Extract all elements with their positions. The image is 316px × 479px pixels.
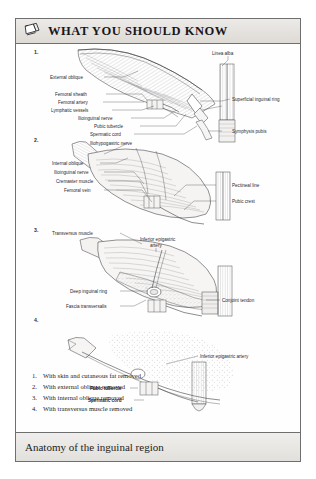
panel-2-label-cremaster-muscle: Cremaster muscle	[56, 179, 94, 184]
panel-4-number: 4.	[34, 317, 39, 323]
panel-1-label-external-oblique: External oblique	[50, 75, 83, 80]
panel-1-label-pubic-tubercle: Pubic tubercle	[94, 124, 124, 129]
inguinal-anatomy-illustration: 1.	[16, 44, 300, 431]
panel-3-number: 3.	[34, 227, 39, 233]
panel-3-label-inferior-epigastric-artery: Inferior epigastric	[140, 237, 176, 242]
card-header: WHAT YOU SHOULD KNOW	[16, 19, 300, 44]
screenshot-root: WHAT YOU SHOULD KNOW	[0, 0, 316, 479]
figure-key-list: 1. With skin and cutaneous fat removed 2…	[32, 372, 142, 412]
panel-3-label-conjoint-tendon: Conjoint tendon	[222, 298, 255, 303]
panel-1-number: 1.	[34, 49, 39, 55]
panel-4-label-inferior-epigastric-artery: Inferior epigastric artery	[200, 354, 249, 359]
panel-2-group: 2.	[34, 137, 260, 224]
figure-caption-bar: Anatomy of the inguinal region	[16, 432, 300, 461]
key-item-3-text: With internal oblique removed	[43, 394, 125, 401]
panel-3-label-deep-inguinal-ring: Deep inguinal ring	[70, 289, 107, 294]
panel-2-label-iliohypogastric-nerve: Iliohypogastric nerve	[90, 141, 133, 146]
panel-2-label-femoral-vein: Femoral vein	[64, 188, 91, 193]
panel-3-label-fascia-transversalis: Fascia transversalis	[66, 304, 107, 309]
key-item-3-number: 3.	[32, 394, 37, 401]
panel-1-label-femoral-sheath: Femoral sheath	[55, 92, 87, 97]
panel-1-label-symphysis-pubis: Symphysis pubis	[232, 129, 267, 134]
panel-1-label-superficial-inguinal-ring: Superficial inguinal ring	[232, 97, 280, 102]
panel-2-label-pubic-crest: Pubic crest	[232, 199, 255, 204]
panel-2-label-pectineal-line: Pectineal line	[232, 183, 260, 188]
panel-1-label-spermatic-cord: Spermatic cord	[90, 132, 121, 137]
panel-1-label-femoral-artery: Femoral artery	[58, 100, 89, 105]
panel-2-label-ilioinguinal-nerve: Ilioinguinal nerve	[54, 170, 89, 175]
panel-3-group: 3.	[34, 227, 255, 316]
figure-caption-text: Anatomy of the inguinal region	[25, 441, 164, 453]
book-page-icon	[23, 22, 41, 39]
figure-body: 1.	[16, 44, 300, 431]
panel-1-label-ilioinguinal-nerve: Ilioinguinal nerve	[78, 116, 113, 121]
card-header-title: WHAT YOU SHOULD KNOW	[48, 24, 228, 39]
panel-3-label-inferior-epigastric-artery-2: artery	[150, 243, 162, 248]
what-you-should-know-card: WHAT YOU SHOULD KNOW	[15, 18, 301, 462]
panel-2-number: 2.	[34, 137, 39, 143]
panel-1-group: 1.	[34, 49, 280, 142]
key-item-4-number: 4.	[32, 405, 37, 412]
panel-3-label-transversus-muscle: Transversus muscle	[52, 231, 93, 236]
key-item-2-text: With external oblique removed	[43, 383, 126, 390]
panel-1-label-linea-alba: Linea alba	[212, 51, 234, 56]
key-item-4-text: With transversus muscle removed	[43, 405, 133, 412]
panel-2-label-internal-oblique: Internal oblique	[52, 161, 84, 166]
key-item-1-number: 1.	[32, 372, 37, 379]
key-item-2-number: 2.	[32, 383, 37, 390]
panel-1-label-lymphatic-vessels: Lymphatic vessels	[51, 108, 89, 113]
key-item-1-text: With skin and cutaneous fat removed	[43, 372, 142, 379]
